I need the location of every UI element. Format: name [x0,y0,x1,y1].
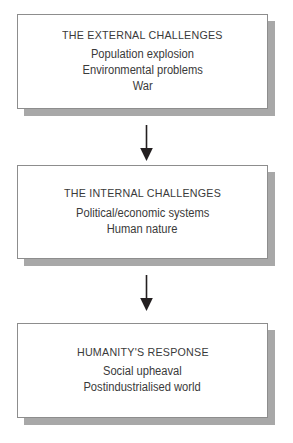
node-line: Social upheaval [103,364,182,380]
node-line: Population explosion [91,47,194,63]
arrow-down-icon [137,125,156,161]
node-lines: Social upheaval Postindustrialised world [79,364,205,396]
node-body: THE INTERNAL CHALLENGES Political/econom… [17,165,268,259]
node-title: HUMANITY'S RESPONSE [77,345,209,359]
node-lines: Political/economic systems Human nature [71,206,214,238]
node-line: Political/economic systems [76,206,209,222]
node-body: HUMANITY'S RESPONSE Social upheaval Post… [17,323,268,418]
node-internal-challenges: THE INTERNAL CHALLENGES Political/econom… [17,165,268,259]
node-external-challenges: THE EXTERNAL CHALLENGES Population explo… [17,14,268,109]
node-line: Postindustrialised world [84,380,201,396]
node-title: THE EXTERNAL CHALLENGES [62,28,223,42]
node-line: Environmental problems [82,63,202,79]
node-line: War [132,79,152,95]
arrow-down-icon [137,275,156,311]
flowchart-diagram: THE EXTERNAL CHALLENGES Population explo… [0,0,293,443]
node-lines: Population explosion Environmental probl… [78,47,207,94]
node-body: THE EXTERNAL CHALLENGES Population explo… [17,14,268,109]
node-humanitys-response: HUMANITY'S RESPONSE Social upheaval Post… [17,323,268,418]
node-title: THE INTERNAL CHALLENGES [64,186,221,200]
node-line: Human nature [107,222,178,238]
